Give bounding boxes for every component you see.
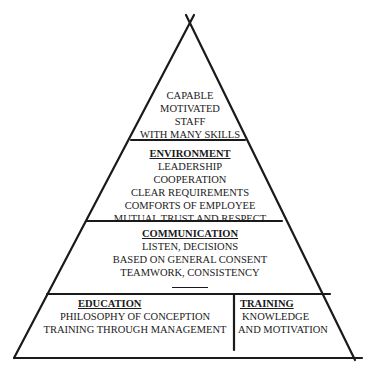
training-block: TRAINING KNOWLEDGE AND MOTIVATION (238, 297, 328, 336)
environment-title: ENVIRONMENT (110, 147, 270, 160)
environment-block: ENVIRONMENT LEADERSHIP COOPERATION CLEAR… (110, 147, 270, 225)
apex-line: WITH MANY SKILLS (140, 128, 240, 141)
training-line: KNOWLEDGE (238, 310, 328, 323)
communication-line: BASED ON GENERAL CONSENT (100, 253, 280, 266)
apex-line: MOTIVATED (140, 102, 240, 115)
apex-block: CAPABLE MOTIVATED STAFF WITH MANY SKILLS (140, 89, 240, 141)
apex-line: STAFF (140, 115, 240, 128)
communication-line: LISTEN, DECISIONS (100, 240, 280, 253)
education-line: PHILOSOPHY OF CONCEPTION (40, 310, 230, 323)
apex-line: CAPABLE (140, 89, 240, 102)
environment-line: MUTUAL TRUST AND RESPECT (110, 212, 270, 225)
education-line: TRAINING THROUGH MANAGEMENT (40, 323, 230, 336)
education-title: EDUCATION (40, 297, 230, 310)
environment-line: LEADERSHIP (110, 160, 270, 173)
environment-line: COOPERATION (110, 173, 270, 186)
training-line: AND MOTIVATION (238, 323, 328, 336)
training-title: TRAINING (238, 297, 328, 310)
education-block: EDUCATION PHILOSOPHY OF CONCEPTION TRAIN… (40, 297, 230, 336)
environment-line: CLEAR REQUIREMENTS (110, 186, 270, 199)
communication-block: COMMUNICATION LISTEN, DECISIONS BASED ON… (100, 227, 280, 288)
communication-dash (172, 287, 208, 288)
communication-title: COMMUNICATION (100, 227, 280, 240)
environment-line: COMFORTS OF EMPLOYEE (110, 199, 270, 212)
communication-line: TEAMWORK, CONSISTENCY (100, 266, 280, 279)
